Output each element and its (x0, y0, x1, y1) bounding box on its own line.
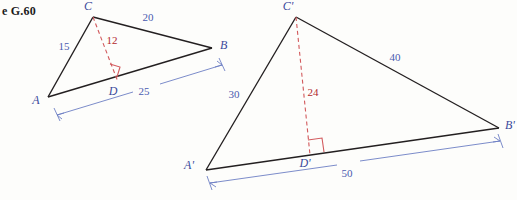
dimension-line-ab-right (160, 65, 222, 84)
measure-label-ac: 15 (59, 40, 71, 52)
segment-ap-bp (206, 128, 499, 170)
figure-container: e G.60 C B A D (0, 0, 517, 200)
triangle-a-prime-b-prime-c-prime-group: C' B' A' D' 40 30 24 50 (183, 0, 515, 190)
vertex-label-a: A (31, 93, 40, 107)
measure-label-ap-bp: 50 (342, 167, 354, 179)
segment-cp-bp (296, 17, 499, 128)
measure-label-ab: 25 (139, 85, 151, 97)
measure-label-altitude-cd: 12 (107, 34, 118, 46)
measure-label-altitude-cp-dp: 24 (308, 86, 320, 98)
dimension-line-apbp-left (210, 165, 337, 183)
dimension-line-ab-left (57, 92, 133, 115)
vertex-label-b: B (220, 38, 228, 52)
vertex-label-cp: C' (283, 0, 294, 13)
right-angle-marker-dp (308, 138, 324, 152)
dimension-line-apbp-right (360, 141, 500, 161)
vertex-label-dp: D' (298, 156, 311, 170)
measure-label-cb: 20 (143, 11, 155, 23)
segment-ab (48, 48, 212, 97)
dimension-ap-bp (207, 134, 503, 190)
vertex-label-ap: A' (183, 158, 194, 172)
vertex-label-d: D (108, 84, 118, 98)
altitude-cd (93, 17, 118, 82)
dimension-arrow-ab-start (57, 113, 64, 119)
geometry-figure: C B A D 20 15 12 25 (0, 0, 517, 200)
measure-label-cp-bp: 40 (390, 51, 402, 63)
vertex-label-c: C (84, 0, 93, 13)
triangle-abc-group: C B A D 20 15 12 25 (31, 0, 228, 121)
measure-label-ap-cp: 30 (229, 88, 241, 100)
vertex-label-bp: B' (505, 118, 515, 132)
